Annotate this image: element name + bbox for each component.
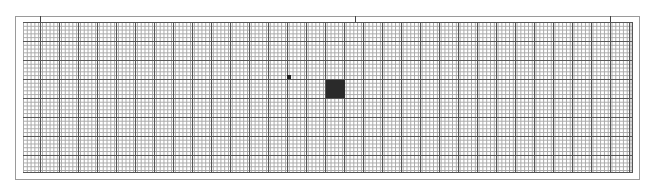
large-square-marker <box>326 80 345 98</box>
small-dot-marker <box>287 75 291 79</box>
